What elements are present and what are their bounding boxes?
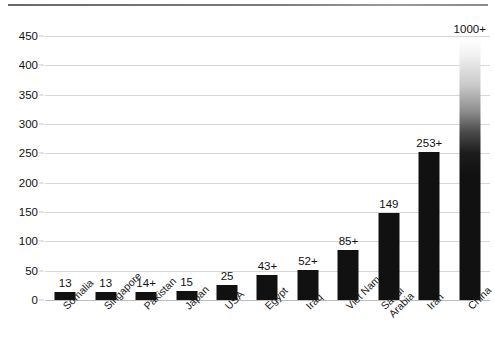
x-axis-label-slot: China xyxy=(450,302,490,360)
y-axis-tick-mark xyxy=(39,182,44,183)
x-axis-label-slot: Singapore xyxy=(85,302,125,360)
y-axis-tick-mark xyxy=(39,270,44,271)
y-axis-tick-label: 200 xyxy=(0,177,38,189)
bar[interactable] xyxy=(419,152,440,300)
bar-chart: 450400350300250200150100500 131314+15254… xyxy=(0,0,495,360)
y-axis-tick-mark xyxy=(39,153,44,154)
x-axis-label-slot: Egypt xyxy=(247,302,287,360)
bar-slot: 43+ xyxy=(247,36,287,300)
bar-slot: 15 xyxy=(166,36,206,300)
bar-slot: 85+ xyxy=(328,36,368,300)
bar-value-label: 253+ xyxy=(416,137,442,149)
bar-slot: 1000+ xyxy=(450,36,490,300)
y-axis-tick-label: 0 xyxy=(0,294,38,306)
bar-slot: 13 xyxy=(45,36,85,300)
y-axis-tick-mark xyxy=(39,212,44,213)
y-axis-tick-label: 150 xyxy=(0,206,38,218)
y-axis-tick-label: 450 xyxy=(0,30,38,42)
x-axis-label-slot: Iraq xyxy=(288,302,328,360)
bar-value-label: 1000+ xyxy=(454,23,486,35)
y-axis: 450400350300250200150100500 xyxy=(0,36,38,300)
x-axis-labels: SomaliaSingaporePakistanJapanUSAEgyptIra… xyxy=(45,302,490,360)
y-axis-tick-label: 300 xyxy=(0,118,38,130)
bar-value-label: 13 xyxy=(99,277,112,289)
x-axis-label-slot: SaudiArabia xyxy=(369,302,409,360)
bar-value-label: 13 xyxy=(59,277,72,289)
bar-slot: 149 xyxy=(369,36,409,300)
y-axis-tick-mark xyxy=(39,36,44,37)
x-axis-label-slot: Iran xyxy=(409,302,449,360)
bar-slot: 14+ xyxy=(126,36,166,300)
bar-slot: 253+ xyxy=(409,36,449,300)
bar-value-label: 149 xyxy=(379,198,398,210)
y-axis-tick-label: 250 xyxy=(0,147,38,159)
y-axis-tick-label: 400 xyxy=(0,59,38,71)
x-axis-label-slot: USA xyxy=(207,302,247,360)
plot-area: 131314+152543+52+85+149253+1000+ xyxy=(45,36,490,300)
y-axis-tick-label: 100 xyxy=(0,235,38,247)
x-axis-label-slot: Pakistan xyxy=(126,302,166,360)
bar-series: 131314+152543+52+85+149253+1000+ xyxy=(45,36,490,300)
bar-value-label: 85+ xyxy=(339,235,359,247)
bar-value-label: 43+ xyxy=(258,260,278,272)
bar-value-label: 25 xyxy=(221,270,234,282)
bar-slot: 52+ xyxy=(288,36,328,300)
top-border-rule xyxy=(8,4,488,6)
bar-value-label: 52+ xyxy=(298,255,318,267)
y-axis-tick-label: 50 xyxy=(0,265,38,277)
bar-value-label: 15 xyxy=(180,276,193,288)
bar[interactable] xyxy=(459,38,480,300)
y-axis-tick-mark xyxy=(39,65,44,66)
bar-slot: 25 xyxy=(207,36,247,300)
y-axis-tick-mark xyxy=(39,124,44,125)
x-axis-label-slot: Viet Nam xyxy=(328,302,368,360)
y-axis-tick-mark xyxy=(39,241,44,242)
y-axis-tick-mark xyxy=(39,94,44,95)
y-axis-tick-label: 350 xyxy=(0,89,38,101)
x-axis-label-slot: Somalia xyxy=(45,302,85,360)
y-axis-tick-mark xyxy=(39,300,44,301)
bar-slot: 13 xyxy=(85,36,125,300)
x-axis-label-slot: Japan xyxy=(166,302,206,360)
